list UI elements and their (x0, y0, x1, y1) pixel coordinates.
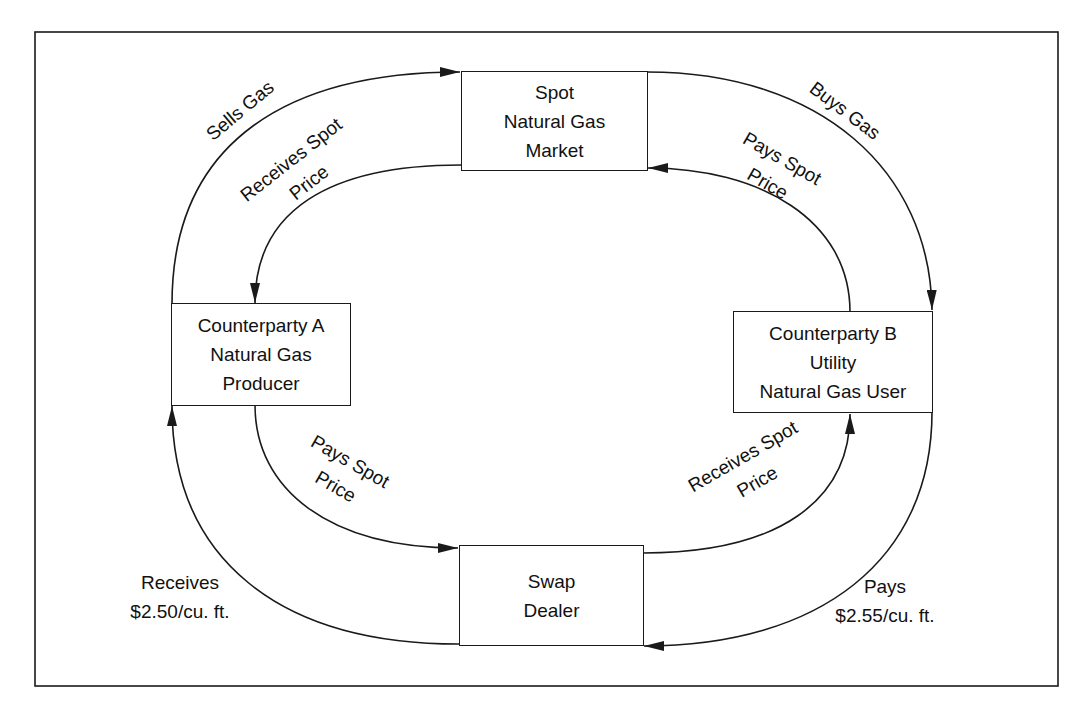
node-label: Spot (535, 78, 574, 107)
node-label: Natural Gas (210, 340, 311, 369)
node-label: Counterparty A (198, 311, 325, 340)
node-label: Natural Gas (504, 107, 605, 136)
node-label: Utility (810, 348, 856, 377)
label-dealer-pays-a: Receives $2.50/cu. ft. (115, 568, 245, 626)
node-spot-market: Spot Natural Gas Market (461, 71, 648, 171)
label-b-pays-dealer: Pays $2.55/cu. ft. (820, 572, 950, 630)
node-label: Swap (528, 567, 576, 596)
node-swap-dealer: Swap Dealer (459, 545, 644, 646)
node-label: Counterparty B (769, 319, 897, 348)
node-counterparty-b: Counterparty B Utility Natural Gas User (733, 311, 933, 413)
node-label: Dealer (524, 596, 580, 625)
node-label: Market (525, 136, 583, 165)
node-label: Producer (222, 369, 299, 398)
node-label: Natural Gas User (760, 377, 907, 406)
node-counterparty-a: Counterparty A Natural Gas Producer (171, 303, 351, 406)
